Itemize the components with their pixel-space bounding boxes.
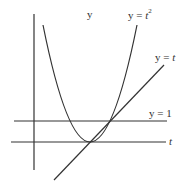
parabola-y-equals-t-squared [43, 25, 137, 142]
horizontal-line-label: y = 1 [149, 108, 172, 119]
parabola-label: y = t2 [128, 10, 152, 21]
y-axis-label: y [87, 9, 93, 20]
line-label: y = t [155, 52, 175, 63]
diagram: y y = t2 y = t y = 1 t [0, 0, 185, 186]
t-axis-label: t [169, 136, 172, 147]
diagram-canvas [0, 0, 185, 186]
